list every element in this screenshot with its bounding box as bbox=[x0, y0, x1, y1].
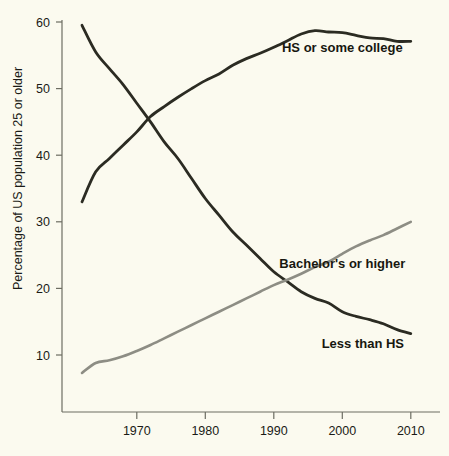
y-axis-title: Percentage of US population 25 or older bbox=[11, 67, 25, 290]
series-line-less-than-hs bbox=[82, 25, 411, 333]
y-axis-ticks: 102030405060 bbox=[36, 16, 62, 363]
x-tick-label: 2000 bbox=[328, 424, 356, 438]
x-axis-ticks: 19701980199020002010 bbox=[123, 412, 425, 438]
y-tick-label: 30 bbox=[36, 215, 50, 229]
series-annotations: HS or some collegeLess than HSBachelor's… bbox=[279, 40, 405, 351]
y-tick-label: 60 bbox=[36, 16, 50, 30]
x-tick-label: 2010 bbox=[397, 424, 425, 438]
series-label-less-than-hs: Less than HS bbox=[322, 336, 405, 351]
x-tick-label: 1970 bbox=[123, 424, 151, 438]
line-chart: 102030405060 19701980199020002010 Percen… bbox=[0, 0, 449, 456]
x-tick-label: 1990 bbox=[260, 424, 288, 438]
y-tick-label: 40 bbox=[36, 149, 50, 163]
series-line-hs-or-some-college bbox=[82, 31, 411, 202]
series-lines bbox=[82, 25, 411, 373]
y-tick-label: 50 bbox=[36, 82, 50, 96]
y-tick-label: 20 bbox=[36, 282, 50, 296]
x-tick-label: 1980 bbox=[191, 424, 219, 438]
series-label-bachelor-s-or-higher: Bachelor's or higher bbox=[279, 256, 405, 271]
y-tick-label: 10 bbox=[36, 349, 50, 363]
chart-container: 102030405060 19701980199020002010 Percen… bbox=[0, 0, 449, 456]
series-label-hs-or-some-college: HS or some college bbox=[282, 40, 403, 55]
